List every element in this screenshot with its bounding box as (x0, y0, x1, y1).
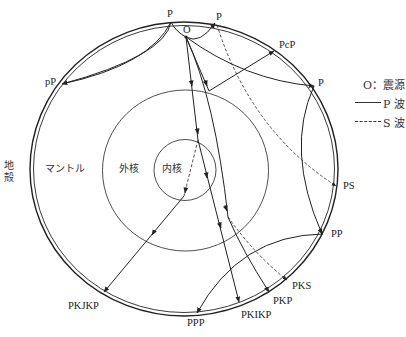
legend: O：震源 P 波 S 波 (341, 74, 405, 131)
label-PKP: PKP (273, 296, 292, 307)
label-P-top-right: P (216, 12, 222, 23)
ray-PKIKP (198, 140, 239, 302)
ray-PP (301, 86, 322, 234)
ray-PKJKP (104, 196, 184, 292)
label-source-O: O (183, 25, 191, 36)
label-inner-core: 内核 (162, 164, 182, 174)
ray-PKS-dashed (228, 217, 287, 280)
label-PKS: PKS (292, 281, 311, 292)
label-PKJKP: PKJKP (68, 301, 99, 312)
ray-PPP (197, 234, 323, 313)
arrow-tick (185, 187, 186, 193)
label-PKIKP: PKIKP (241, 310, 271, 321)
label-P-top-left: P (167, 9, 173, 20)
legend-source: O：震源 (341, 74, 405, 93)
label-PPP: PPP (187, 318, 205, 329)
label-PcP: PcP (279, 40, 295, 51)
arrow-tick (152, 230, 155, 235)
ray-PcP-up (209, 51, 274, 91)
legend-s-wave-text: S 波 (383, 114, 405, 130)
solid-line-icon (355, 102, 381, 103)
label-crust: 地殻 (4, 160, 16, 184)
label-pP: pP (45, 77, 56, 88)
ray-PKP (186, 37, 269, 292)
dashed-line-icon (355, 121, 381, 122)
label-mantle: マントル (45, 164, 85, 174)
ray-pP-lower (62, 22, 171, 84)
ray-pP-upper (62, 22, 171, 84)
label-P-right: P (318, 78, 324, 89)
label-outer-core: 外核 (119, 164, 139, 174)
legend-p-wave: P 波 (341, 93, 405, 112)
ray-to-inner-core (192, 89, 198, 140)
source-point (184, 35, 187, 38)
label-PS: PS (343, 181, 355, 192)
legend-source-text: O：震源 (363, 76, 405, 92)
legend-s-wave: S 波 (341, 112, 405, 131)
label-PP: PP (331, 229, 343, 240)
arrow-tick (206, 172, 207, 178)
legend-p-wave-text: P 波 (383, 95, 405, 111)
